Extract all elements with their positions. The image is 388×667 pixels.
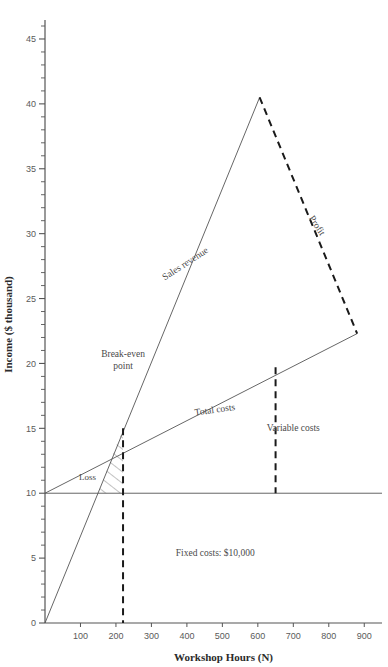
break-even-label-line2: point bbox=[113, 361, 133, 371]
y-tick-label: 20 bbox=[26, 359, 36, 369]
break-even-chart: 051015202530354045 100200300400500600700… bbox=[0, 0, 388, 667]
variable-costs-label: Variable costs bbox=[267, 423, 320, 433]
series-sales-revenue bbox=[45, 97, 260, 623]
x-tick-label: 200 bbox=[108, 631, 123, 641]
break-even-label-line1: Break-even bbox=[101, 349, 145, 359]
y-tick-label: 40 bbox=[26, 99, 36, 109]
y-tick-label: 10 bbox=[26, 488, 36, 498]
y-tick-label: 5 bbox=[31, 553, 36, 563]
y-tick-label: 30 bbox=[26, 229, 36, 239]
y-tick-label: 15 bbox=[26, 424, 36, 434]
x-tick-label: 500 bbox=[215, 631, 230, 641]
x-tick-label: 800 bbox=[321, 631, 336, 641]
y-tick-label: 35 bbox=[26, 164, 36, 174]
x-tick-label: 600 bbox=[250, 631, 265, 641]
chart-canvas: 051015202530354045 100200300400500600700… bbox=[0, 0, 388, 667]
x-tick-label: 700 bbox=[286, 631, 301, 641]
loss-label: Loss bbox=[79, 472, 97, 482]
y-tick-label: 45 bbox=[26, 34, 36, 44]
y-tick-label: 0 bbox=[31, 618, 36, 628]
x-axis-title: Workshop Hours (N) bbox=[174, 651, 273, 664]
profit-label: Profit bbox=[307, 214, 327, 238]
y-axis-tick-labels: 051015202530354045 bbox=[26, 34, 36, 628]
x-axis-tick-labels: 100200300400500600700800900 bbox=[73, 631, 372, 641]
y-axis-ticks bbox=[39, 26, 45, 623]
series-profit bbox=[260, 97, 358, 333]
total-costs-label: Total costs bbox=[194, 402, 236, 418]
y-axis-title: Income ($ thousand) bbox=[2, 276, 15, 373]
y-tick-label: 25 bbox=[26, 294, 36, 304]
x-tick-label: 400 bbox=[179, 631, 194, 641]
sales-revenue-label: Sales revenue bbox=[161, 245, 210, 282]
x-tick-label: 900 bbox=[357, 631, 372, 641]
fixed-costs-note: Fixed costs: $10,000 bbox=[176, 548, 255, 558]
series-lines bbox=[45, 97, 382, 623]
x-tick-label: 300 bbox=[144, 631, 159, 641]
x-tick-label: 100 bbox=[73, 631, 88, 641]
axes bbox=[45, 20, 382, 623]
